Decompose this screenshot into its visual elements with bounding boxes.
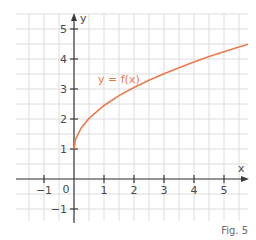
y-tick-label: 3 xyxy=(60,83,67,96)
y-tick-label: 1 xyxy=(60,143,67,156)
y-tick-label: 4 xyxy=(60,53,67,66)
curve-label: y = f(x) xyxy=(98,73,140,86)
y-tick-label: −1 xyxy=(51,203,67,216)
x-tick-label: 3 xyxy=(161,184,168,197)
y-tick-label: 5 xyxy=(60,23,67,36)
x-tick-label: 1 xyxy=(101,184,108,197)
x-axis-arrow-icon xyxy=(241,176,249,182)
y-tick-label: 2 xyxy=(60,113,67,126)
origin-label: 0 xyxy=(63,183,70,196)
x-tick-label: 5 xyxy=(221,184,228,197)
x-tick-label: 4 xyxy=(191,184,198,197)
y-axis-label: y xyxy=(80,12,87,25)
x-axis-label: x xyxy=(238,162,245,175)
figure-caption: Fig. 5 xyxy=(221,225,248,236)
curve-f-of-x xyxy=(74,44,248,149)
x-tick-label: 2 xyxy=(131,184,138,197)
function-graph: xy −112345−1123450 y = f(x) xyxy=(0,0,256,240)
x-tick-label: −1 xyxy=(36,184,52,197)
